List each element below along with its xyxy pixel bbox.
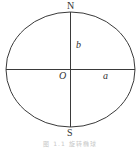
figure-caption: 图 1.1 旋转椭球 — [0, 139, 140, 148]
ellipse-diagram — [0, 0, 140, 148]
semi-major-label: a — [103, 71, 108, 81]
origin-label: O — [59, 71, 66, 81]
north-label: N — [67, 1, 74, 11]
south-label: S — [67, 128, 73, 138]
semi-minor-label: b — [76, 40, 81, 50]
